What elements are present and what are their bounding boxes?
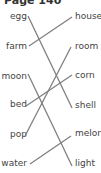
match-lines xyxy=(0,0,101,173)
line-egg-shell xyxy=(28,16,72,108)
